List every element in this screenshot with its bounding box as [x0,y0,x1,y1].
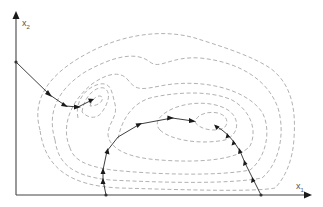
start-point [14,60,17,63]
contour-7 [195,112,227,130]
contour-4 [77,84,253,161]
contour-optimization-diagram: x2 x1 [0,0,323,207]
x-axis-arrow-icon [304,192,312,199]
arrow-icon [101,168,106,174]
path-from-left-axis [14,60,94,109]
contour-6 [157,103,236,142]
y-axis-label: x2 [22,18,31,30]
axes: x2 x1 [13,11,313,199]
x-axis-label: x1 [296,181,305,193]
contour-lines [38,34,295,191]
path-from-bottom-middle [101,116,197,197]
path-from-bottom-right [214,125,263,197]
arrow-icon [167,116,174,121]
start-point [104,193,107,196]
arrow-icon [136,123,143,128]
start-point [259,193,262,196]
y-axis-arrow-icon [13,11,20,19]
